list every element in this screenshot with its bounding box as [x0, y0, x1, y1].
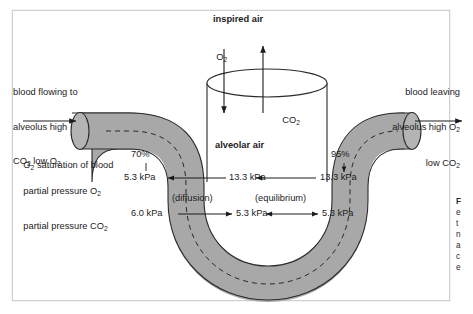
- inspired-air-label: inspired air: [213, 14, 263, 26]
- blood-out-line-2: alveolus high O2: [330, 122, 460, 135]
- value-pco2-alveolar-mid: 5.3 kPa: [236, 208, 268, 220]
- note-equilibrium: (equilibrium): [255, 193, 306, 205]
- value-saturation-right: 95%: [331, 149, 350, 161]
- value-pco2-blood-right: 5.3 kPa: [322, 208, 354, 220]
- co2-label: CO2: [272, 103, 300, 139]
- value-pco2-blood-left: 6.0 kPa: [131, 208, 163, 220]
- caption-line-1: e: [456, 207, 473, 218]
- row-label-pco2: partial pressure CO2: [13, 209, 108, 245]
- figure-caption: F e t n a c e: [456, 196, 473, 273]
- blood-out-line-1: blood leaving: [330, 87, 460, 99]
- alveolus-cylinder: [207, 69, 327, 182]
- caption-line-4: a: [456, 240, 473, 251]
- caption-title: F: [456, 196, 473, 207]
- value-po2-alveolar-mid: 13.3 kPa: [229, 172, 266, 184]
- value-po2-blood-left: 5.3 kPa: [124, 172, 156, 184]
- blood-in-line-1: blood flowing to: [13, 87, 78, 99]
- alveolar-air-label: alveolar air: [215, 140, 264, 152]
- cylinder-walls: [207, 83, 327, 182]
- figure-container: inspired air O2 CO2 alveolar air blood f…: [0, 0, 473, 314]
- value-po2-blood-right: 13.3 kPa: [320, 172, 357, 184]
- row-label-po2: partial pressure O2: [13, 174, 101, 210]
- caption-line-6: e: [456, 262, 473, 273]
- caption-line-3: n: [456, 229, 473, 240]
- value-saturation-left: 70%: [131, 149, 150, 161]
- note-diffusion: (diffusion): [172, 193, 213, 205]
- blood-in-line-2: alveolus high: [13, 122, 78, 134]
- caption-line-5: c: [456, 251, 473, 262]
- o2-label: O2: [206, 40, 227, 76]
- caption-line-2: t: [456, 218, 473, 229]
